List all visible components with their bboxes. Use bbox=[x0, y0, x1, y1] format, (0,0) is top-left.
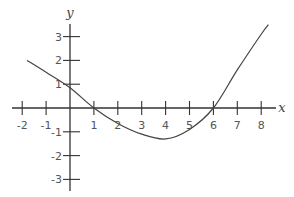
y-tick-label: 2 bbox=[55, 54, 62, 67]
x-tick-label: 4 bbox=[162, 119, 169, 132]
x-tick-label: 1 bbox=[90, 119, 97, 132]
y-tick-label: 3 bbox=[55, 31, 62, 44]
x-tick-label: -1 bbox=[41, 119, 52, 132]
x-axis-label: x bbox=[278, 100, 286, 115]
x-tick-label: 8 bbox=[258, 119, 265, 132]
x-tick-label: 6 bbox=[210, 119, 217, 132]
y-axis-label: y bbox=[65, 5, 74, 20]
y-tick-label: -3 bbox=[51, 173, 62, 186]
x-tick-label: 2 bbox=[114, 119, 121, 132]
x-tick-label: 3 bbox=[138, 119, 145, 132]
y-tick-label: -1 bbox=[51, 126, 62, 139]
x-tick-label: 7 bbox=[234, 119, 241, 132]
x-tick-label: -2 bbox=[17, 119, 28, 132]
function-graph: -2-112345678321-1-2-3xy bbox=[0, 0, 294, 197]
y-tick-label: -2 bbox=[51, 150, 62, 163]
function-curve bbox=[27, 25, 268, 139]
